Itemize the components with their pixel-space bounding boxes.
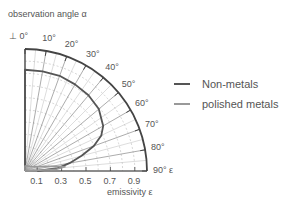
- angle-axis-title: observation angle α: [8, 9, 87, 19]
- angle-tick-label: 50°: [122, 79, 136, 89]
- series-non-metals: [25, 70, 103, 171]
- angle-tick-label: 30°: [86, 49, 100, 59]
- legend-label-polished-metals: polished metals: [202, 98, 278, 110]
- legend-item-polished-metals: polished metals: [174, 94, 278, 114]
- legend-swatch-non-metals: [174, 83, 190, 85]
- angle-tick-label: ⊥ 0°: [9, 31, 28, 41]
- legend-label-non-metals: Non-metals: [202, 78, 258, 90]
- angle-tick-label: 70°: [145, 119, 159, 129]
- angle-tick: [84, 65, 87, 69]
- grid-spoke: [25, 60, 77, 171]
- legend-item-non-metals: Non-metals: [174, 74, 278, 94]
- legend-swatch-polished-metals: [174, 103, 190, 105]
- radial-tick-label: 0.3: [55, 176, 68, 186]
- angle-tick-label: 40°: [105, 62, 119, 72]
- radial-tick-label: 0.5: [79, 176, 92, 186]
- angle-tick: [100, 78, 103, 82]
- radial-tick-label: 0.9: [128, 176, 141, 186]
- angle-tick-label: 90° ε: [153, 165, 173, 175]
- grid-spoke: [25, 119, 136, 171]
- radial-axis-title: emissivity ε: [107, 187, 153, 197]
- angle-tick-label: 20°: [65, 39, 79, 49]
- angle-tick-label: 80°: [151, 142, 165, 152]
- legend: Non-metals polished metals: [174, 74, 278, 114]
- radial-tick-label: 0.7: [103, 176, 116, 186]
- angle-tick: [115, 93, 119, 96]
- angle-tick: [126, 110, 130, 113]
- angle-tick: [65, 56, 67, 61]
- angle-tick-label: 60°: [135, 98, 149, 108]
- radial-tick-label: 0.1: [30, 176, 43, 186]
- angle-tick-label: 10°: [42, 33, 56, 43]
- angle-tick: [135, 129, 140, 131]
